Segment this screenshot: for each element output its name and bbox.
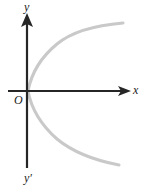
y-axis-bottom-label: y′ — [24, 172, 32, 184]
x-axis-label: x — [133, 84, 138, 96]
parabola-figure: y x O y′ — [0, 0, 149, 189]
parabola-upper-branch-curve — [28, 23, 123, 91]
y-axis-top-label: y — [24, 1, 29, 13]
origin-label: O — [14, 94, 23, 106]
parabola-lower-branch-curve — [28, 91, 119, 165]
